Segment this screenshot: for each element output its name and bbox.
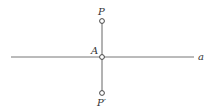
point-p-prime-marker <box>100 91 105 96</box>
point-p-prime-label: P′ <box>96 97 107 108</box>
point-a-label: A <box>90 45 98 56</box>
line-a-label: a <box>198 51 204 62</box>
point-p-marker <box>100 19 105 24</box>
point-p-label: P <box>97 6 105 17</box>
diagram-canvas: P A P′ a <box>0 0 216 112</box>
point-a-marker <box>100 55 105 60</box>
